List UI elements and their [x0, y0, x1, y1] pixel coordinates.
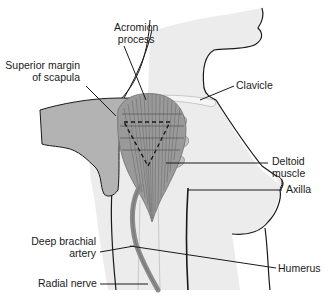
- label-acromion-line1: Acromion: [114, 22, 158, 34]
- label-humerus: Humerus: [278, 263, 321, 275]
- label-deltoid-line2: muscle: [272, 168, 305, 180]
- label-superior-margin-line1: Superior margin: [4, 60, 80, 72]
- label-radial-nerve: Radial nerve: [38, 278, 97, 290]
- label-acromion-process: Acromion process: [114, 22, 158, 45]
- label-deltoid-muscle: Deltoid muscle: [272, 156, 305, 179]
- label-clavicle: Clavicle: [236, 80, 273, 92]
- label-axilla: Axilla: [286, 184, 311, 196]
- anatomy-diagram: Acromion process Superior margin of scap…: [0, 0, 328, 296]
- label-deep-brachial-artery: Deep brachial artery: [20, 236, 96, 259]
- label-superior-margin-of-scapula: Superior margin of scapula: [4, 60, 80, 83]
- label-deltoid-line1: Deltoid: [272, 156, 305, 168]
- label-acromion-line2: process: [114, 34, 158, 46]
- label-deep-brachial-line2: artery: [20, 248, 96, 260]
- torso-lower-line: [265, 228, 270, 290]
- label-superior-margin-line2: of scapula: [4, 72, 80, 84]
- label-deep-brachial-line1: Deep brachial: [20, 236, 96, 248]
